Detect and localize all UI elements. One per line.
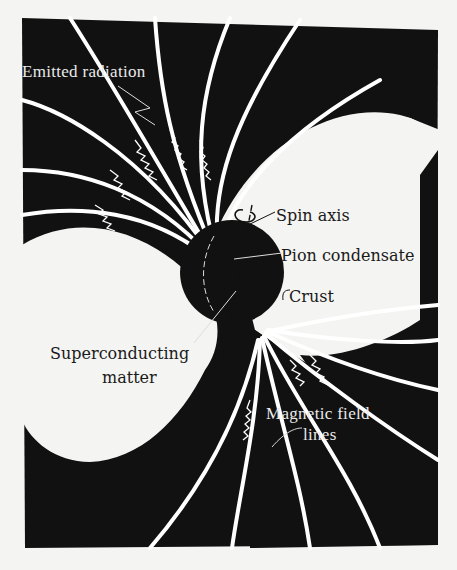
neutron-star-diagram: Emitted radiation Spin axis Pion condens… bbox=[0, 0, 457, 570]
label-emitted-radiation: Emitted radiation bbox=[22, 62, 146, 81]
label-superconducting: Superconducting bbox=[50, 344, 189, 363]
label-magnetic-field: Magnetic field bbox=[266, 404, 370, 423]
label-lines: lines bbox=[303, 425, 337, 444]
label-crust: Crust bbox=[289, 287, 334, 306]
label-spin-axis: Spin axis bbox=[276, 206, 350, 225]
label-pion-condensate: Pion condensate bbox=[281, 246, 414, 265]
label-matter: matter bbox=[102, 368, 157, 387]
